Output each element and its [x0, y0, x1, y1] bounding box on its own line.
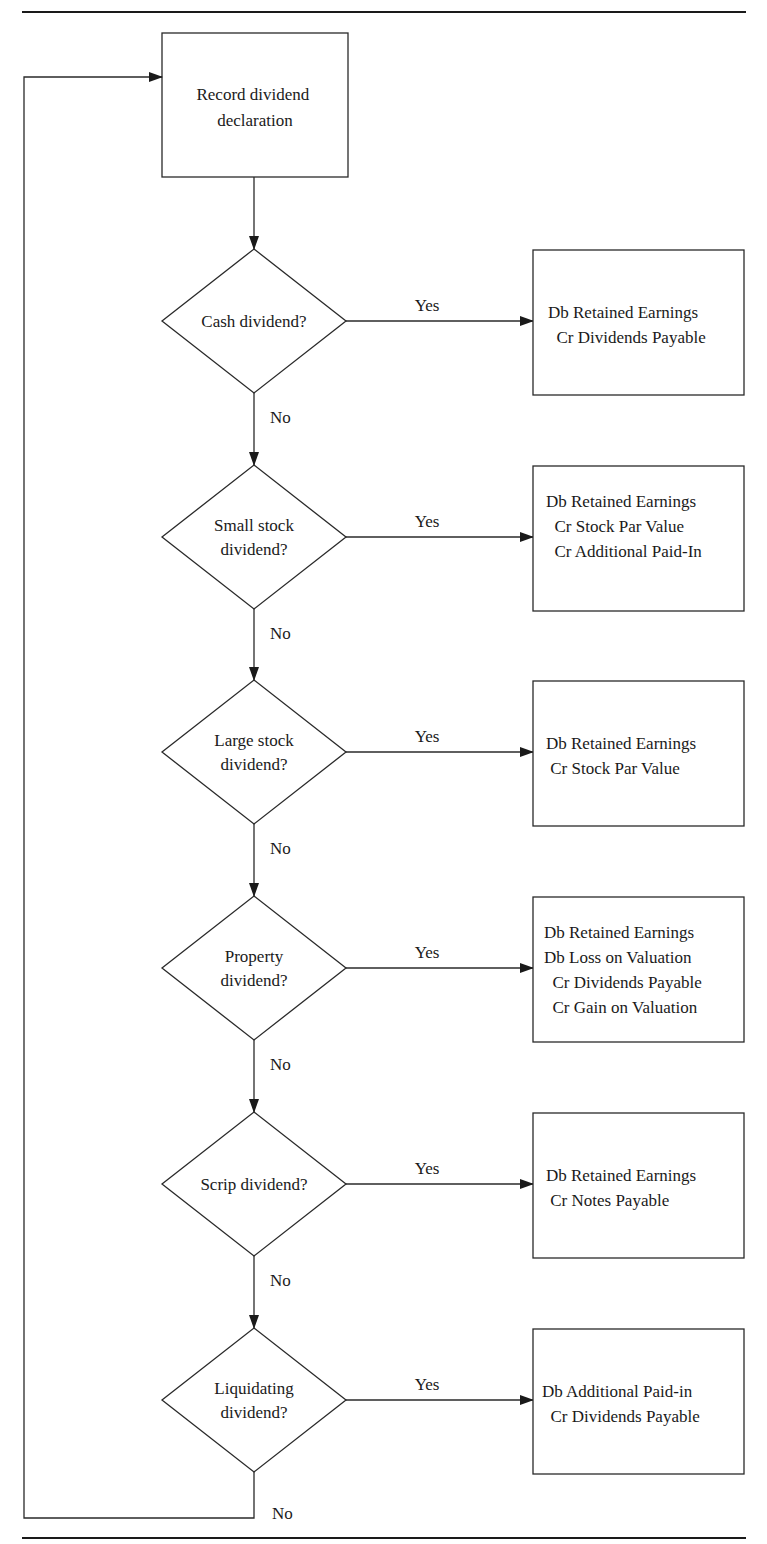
question-line: dividend? — [220, 1403, 287, 1422]
decision-list: Cash dividend?YesDb Retained Earnings Cr… — [162, 249, 744, 1523]
question-line: Cash dividend? — [201, 312, 306, 331]
decision-diamond-property — [162, 896, 346, 1040]
journal-entry-line: Cr Notes Payable — [546, 1191, 669, 1210]
journal-entry-line: Db Retained Earnings — [548, 303, 698, 322]
question-line: Property — [225, 947, 284, 966]
start-line-1: Record dividend — [196, 85, 309, 104]
journal-entry-line: Db Loss on Valuation — [544, 948, 692, 967]
yes-label: Yes — [415, 296, 440, 315]
journal-entry-line: Db Retained Earnings — [546, 492, 696, 511]
journal-entry-line: Db Retained Earnings — [546, 1166, 696, 1185]
no-label: No — [272, 1504, 293, 1523]
question-line: Large stock — [214, 731, 294, 750]
decision-diamond-liquidating — [162, 1328, 346, 1472]
decision-row-property: Propertydividend?YesDb Retained Earnings… — [162, 896, 744, 1112]
journal-entry-line: Cr Stock Par Value — [546, 759, 680, 778]
no-label: No — [270, 1055, 291, 1074]
start-line-2: declaration — [217, 111, 293, 130]
journal-entry-line: Cr Dividends Payable — [548, 328, 706, 347]
decision-row-large-stock: Large stockdividend?YesDb Retained Earni… — [162, 680, 744, 896]
yes-label: Yes — [415, 512, 440, 531]
decision-question: Cash dividend? — [201, 312, 306, 331]
journal-entry-box-scrip — [533, 1113, 744, 1258]
journal-entry-text: Db Retained Earnings Cr Stock Par Value … — [546, 492, 702, 561]
yes-label: Yes — [415, 727, 440, 746]
journal-entry-line: Cr Gain on Valuation — [544, 998, 698, 1017]
journal-entry-line: Cr Stock Par Value — [546, 517, 684, 536]
no-label: No — [270, 839, 291, 858]
decision-diamond-large-stock — [162, 680, 346, 824]
decision-row-small-stock: Small stockdividend?YesDb Retained Earni… — [162, 465, 744, 680]
decision-diamond-small-stock — [162, 465, 346, 609]
journal-entry-line: Db Retained Earnings — [546, 734, 696, 753]
question-line: dividend? — [220, 755, 287, 774]
question-line: Small stock — [214, 516, 294, 535]
decision-question: Scrip dividend? — [200, 1175, 307, 1194]
journal-entry-box-cash — [533, 250, 744, 395]
question-line: Scrip dividend? — [200, 1175, 307, 1194]
yes-label: Yes — [415, 1375, 440, 1394]
journal-entry-box-large-stock — [533, 681, 744, 826]
no-label: No — [270, 1271, 291, 1290]
journal-entry-line: Cr Dividends Payable — [544, 973, 702, 992]
question-line: dividend? — [220, 971, 287, 990]
yes-label: Yes — [415, 943, 440, 962]
journal-entry-line: Cr Additional Paid-In — [546, 542, 702, 561]
journal-entry-line: Db Additional Paid-in — [542, 1382, 693, 1401]
no-label: No — [270, 624, 291, 643]
start-box: Record dividend declaration — [162, 33, 348, 177]
question-line: Liquidating — [214, 1379, 294, 1398]
journal-entry-line: Db Retained Earnings — [544, 923, 694, 942]
question-line: dividend? — [220, 540, 287, 559]
dividend-flowchart: Record dividend declaration Cash dividen… — [0, 0, 767, 1544]
decision-row-cash: Cash dividend?YesDb Retained Earnings Cr… — [162, 249, 744, 465]
journal-entry-box-property — [533, 897, 744, 1042]
decision-row-liquidating: Liquidatingdividend?YesDb Additional Pai… — [162, 1328, 744, 1523]
decision-row-scrip: Scrip dividend?YesDb Retained Earnings C… — [162, 1112, 744, 1328]
journal-entry-box-liquidating — [533, 1329, 744, 1474]
yes-label: Yes — [415, 1159, 440, 1178]
journal-entry-line: Cr Dividends Payable — [542, 1407, 700, 1426]
journal-entry-box-small-stock — [533, 466, 744, 611]
no-label: No — [270, 408, 291, 427]
